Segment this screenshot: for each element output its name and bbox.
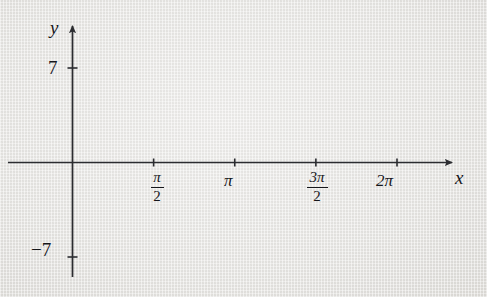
y-tick-label-minus-7: −7 [31,240,51,259]
fraction-numerator: π [142,170,172,186]
fraction-denominator: 2 [142,189,172,205]
x-axis-label: x [455,168,463,187]
figure-canvas: y x 7 −7 π 2 π 3π 2 2π [0,0,487,297]
x-tick-label-three-pi-over-2: 3π 2 [300,170,334,205]
fraction-denominator: 2 [300,189,334,205]
sine-family-plot [0,0,487,297]
axis-layer [8,26,452,277]
y-tick-label-7: 7 [48,58,58,77]
y-axis-label: y [50,18,58,37]
x-tick-label-two-pi: 2π [376,172,393,189]
x-tick-label-pi-over-2: π 2 [142,170,172,205]
x-tick-label-pi: π [224,172,233,189]
fraction-numerator: 3π [300,170,334,186]
